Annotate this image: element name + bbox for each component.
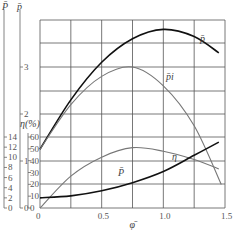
svg-text:8: 8 (8, 162, 13, 172)
svg-text:40: 40 (30, 156, 40, 166)
svg-text:0: 0 (8, 203, 13, 213)
svg-text:0: 0 (30, 203, 35, 213)
svg-text:20: 20 (30, 179, 40, 189)
svg-text:0.5: 0.5 (98, 211, 110, 221)
svg-text:12: 12 (8, 142, 17, 152)
svg-text:10: 10 (30, 191, 40, 201)
svg-text:1.0: 1.0 (159, 211, 171, 221)
svg-text:φ̄: φ̄ (130, 219, 139, 230)
svg-text:50: 50 (30, 144, 40, 154)
svg-text:14: 14 (8, 132, 18, 142)
chart: 0246810121401230102030405060P̄p̄η(%)00.5… (0, 0, 233, 230)
svg-text:0: 0 (36, 211, 41, 221)
svg-text:P̄: P̄ (1, 1, 8, 12)
svg-text:10: 10 (8, 152, 18, 162)
svg-text:6: 6 (8, 173, 13, 183)
svg-text:2: 2 (8, 193, 13, 203)
svg-text:p̄: p̄ (16, 1, 22, 12)
svg-text:1.5: 1.5 (221, 211, 233, 221)
axes: 0246810121401230102030405060P̄p̄η(%)00.5… (1, 1, 233, 230)
svg-text:60: 60 (30, 132, 40, 142)
svg-text:p̄i: p̄i (165, 71, 174, 82)
svg-text:p̄: p̄ (199, 33, 205, 44)
svg-text:3: 3 (24, 62, 29, 72)
svg-text:4: 4 (8, 183, 13, 193)
svg-text:η(%): η(%) (20, 118, 41, 130)
svg-text:η: η (172, 151, 177, 162)
svg-text:30: 30 (30, 168, 40, 178)
svg-text:P̄: P̄ (117, 167, 124, 178)
grid (40, 20, 225, 208)
